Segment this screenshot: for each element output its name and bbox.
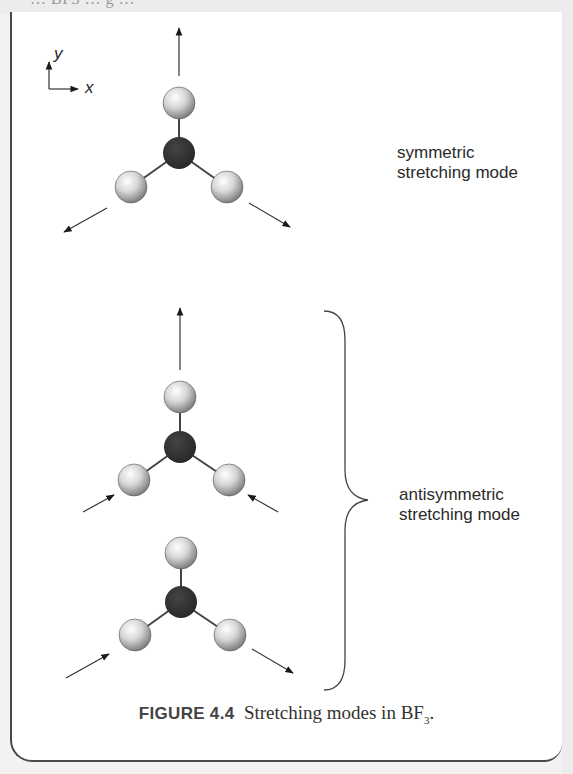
symmetric-label-line1: symmetric (397, 143, 518, 163)
curly-brace (324, 311, 368, 690)
caption-text: Stretching modes in BF (244, 702, 424, 723)
y-axis-label: y (54, 44, 63, 64)
x-axis-label: x (85, 78, 94, 98)
figure-diagram (0, 0, 573, 774)
symmetric-mode-label: symmetric stretching mode (397, 143, 518, 183)
molecule-symmetric (64, 28, 290, 232)
molecule-antisymmetric-a (83, 308, 278, 512)
symmetric-label-line2: stretching mode (397, 163, 518, 183)
caption-end: . (429, 702, 434, 723)
antisymmetric-label-line2: stretching mode (399, 505, 520, 525)
antisymmetric-mode-label: antisymmetric stretching mode (399, 485, 520, 525)
figure-caption: FIGURE 4.4 Stretching modes in BF3. (0, 702, 573, 726)
axes-indicator (49, 62, 78, 89)
molecule-antisymmetric-b (66, 537, 293, 678)
antisymmetric-label-line1: antisymmetric (399, 485, 520, 505)
figure-number: FIGURE 4.4 (139, 704, 235, 723)
